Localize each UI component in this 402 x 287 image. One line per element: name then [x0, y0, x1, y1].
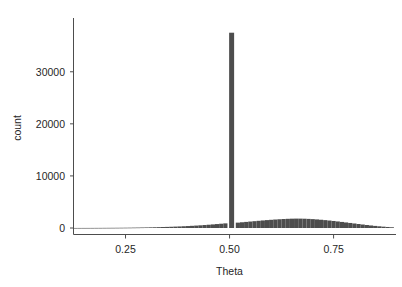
histogram-bar: [94, 228, 98, 229]
histogram-bar: [186, 226, 190, 228]
histogram-bar: [311, 219, 315, 228]
histogram-bar: [377, 226, 381, 228]
histogram-bar: [119, 228, 123, 229]
histogram-bar: [381, 227, 385, 228]
histogram-bar: [236, 223, 240, 228]
histogram-bar: [161, 227, 165, 228]
histogram-bar: [286, 219, 290, 228]
histogram-bar: [327, 221, 331, 228]
y-tick-label: 0: [20, 223, 65, 234]
histogram-bar: [86, 228, 90, 229]
histogram-bar: [390, 227, 394, 228]
histogram-bar: [269, 220, 273, 228]
histogram-bar: [173, 227, 177, 228]
histogram-bar: [103, 228, 107, 229]
histogram-bar: [302, 219, 306, 228]
histogram-bar: [252, 221, 256, 228]
histogram-bar: [348, 223, 352, 228]
x-tick-label: 0.50: [219, 244, 239, 255]
histogram-bar: [198, 225, 202, 228]
histogram-bar: [165, 227, 169, 228]
histogram-bar: [319, 220, 323, 228]
histogram-bar: [315, 219, 319, 228]
histogram-bar: [298, 219, 302, 228]
histogram-bar: [273, 220, 277, 228]
histogram-bar: [373, 226, 377, 228]
histogram-bar: [336, 221, 340, 228]
histogram-bar: [352, 223, 356, 228]
y-tick-label: 20000: [20, 119, 65, 130]
histogram-bar: [157, 227, 161, 228]
y-tick-label: 10000: [20, 171, 65, 182]
axis-spines: [74, 18, 397, 235]
histogram-bar: [190, 226, 194, 228]
histogram-bar: [132, 228, 136, 229]
histogram-bar: [369, 225, 373, 228]
histogram-bar: [203, 225, 207, 228]
histogram-bar-spike: [229, 33, 234, 228]
histogram-bar: [98, 228, 102, 229]
histogram-bar: [140, 227, 144, 228]
histogram-bar: [111, 228, 115, 229]
histogram-bar: [207, 225, 211, 228]
histogram-bar: [90, 228, 94, 229]
x-axis-ticks: [126, 235, 334, 239]
histogram-bar: [194, 226, 198, 228]
histogram-bar: [115, 228, 119, 229]
histogram-bar: [386, 227, 390, 228]
histogram-bar: [215, 224, 219, 228]
x-tick-label: 0.75: [323, 244, 343, 255]
histogram-bar: [365, 225, 369, 228]
histogram-bar: [219, 224, 223, 228]
histogram-bar: [244, 222, 248, 228]
histogram-bar: [356, 224, 360, 228]
histogram-bar: [294, 219, 298, 228]
histogram-bar: [361, 225, 365, 228]
histogram-bar: [182, 226, 186, 228]
histogram-bar: [128, 228, 132, 229]
histogram-bar: [290, 219, 294, 228]
histogram-bar: [344, 222, 348, 228]
histogram-bar: [82, 228, 86, 229]
histogram-bar: [136, 228, 140, 229]
histogram-bar: [169, 227, 173, 228]
histogram-bar: [261, 220, 265, 228]
histogram-bar: [282, 219, 286, 228]
histogram-bar: [107, 228, 111, 229]
histogram-bar: [240, 222, 244, 228]
histogram-bar: [340, 222, 344, 228]
histogram-bar: [323, 220, 327, 228]
y-axis-ticks: [70, 72, 74, 228]
histogram-bar: [277, 219, 281, 228]
histogram-bars: [74, 33, 394, 229]
histogram-figure: 0100002000030000 0.250.500.75 count Thet…: [0, 0, 402, 287]
histogram-bar: [332, 221, 336, 228]
histogram-bar: [257, 221, 261, 228]
histogram-bar: [211, 224, 215, 228]
histogram-bar: [248, 222, 252, 228]
y-tick-label: 30000: [20, 67, 65, 78]
histogram-bar: [307, 219, 311, 228]
histogram-bar: [148, 227, 152, 228]
histogram-bar: [123, 228, 127, 229]
histogram-bar: [78, 228, 82, 229]
histogram-bar: [178, 226, 182, 228]
histogram-bar: [265, 220, 269, 228]
histogram-bar: [74, 228, 78, 229]
y-axis-label: count: [12, 115, 23, 141]
x-axis-label: Theta: [216, 266, 243, 277]
histogram-bar: [144, 227, 148, 228]
histogram-bar: [153, 227, 157, 228]
histogram-bar: [223, 223, 227, 228]
x-tick-label: 0.25: [115, 244, 135, 255]
